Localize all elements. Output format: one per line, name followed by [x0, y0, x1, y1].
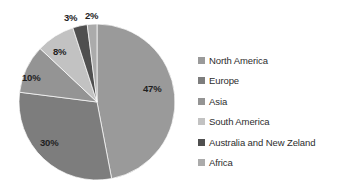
legend-item-asia[interactable]: Asia — [198, 91, 336, 112]
legend-swatch-icon — [198, 159, 205, 166]
legend-item-label: Europe — [209, 76, 239, 86]
legend-item-label: Asia — [209, 97, 227, 107]
slice-label-europe: 30% — [40, 138, 58, 148]
pie-slice — [19, 92, 112, 180]
chart-legend: North America Europe Asia South America … — [198, 50, 336, 173]
pie-slices-group — [0, 0, 190, 192]
legend-item-europe[interactable]: Europe — [198, 71, 336, 92]
legend-item-label: South America — [209, 117, 269, 127]
legend-item-africa[interactable]: Africa — [198, 153, 336, 174]
legend-swatch-icon — [198, 57, 205, 64]
legend-item-australia-and-new-zeland[interactable]: Australia and New Zeland — [198, 132, 336, 153]
legend-item-label: Africa — [209, 158, 233, 168]
slice-label-asia: 10% — [22, 73, 40, 83]
slice-label-south-america: 8% — [53, 47, 66, 57]
pie-slice — [97, 24, 175, 179]
legend-swatch-icon — [198, 77, 205, 84]
slice-label-australia: 3% — [64, 13, 77, 23]
legend-item-label: North America — [209, 56, 268, 66]
slice-label-north-america: 47% — [143, 84, 161, 94]
pie-plot-area: 47% 30% 10% 8% 3% 2% — [0, 0, 190, 192]
legend-swatch-icon — [198, 98, 205, 105]
legend-item-south-america[interactable]: South America — [198, 112, 336, 133]
pie-chart: 47% 30% 10% 8% 3% 2% North America Europ… — [0, 0, 338, 192]
legend-item-label: Australia and New Zeland — [209, 138, 315, 148]
legend-swatch-icon — [198, 118, 205, 125]
legend-swatch-icon — [198, 139, 205, 146]
slice-label-africa: 2% — [85, 11, 98, 21]
legend-item-north-america[interactable]: North America — [198, 50, 336, 71]
